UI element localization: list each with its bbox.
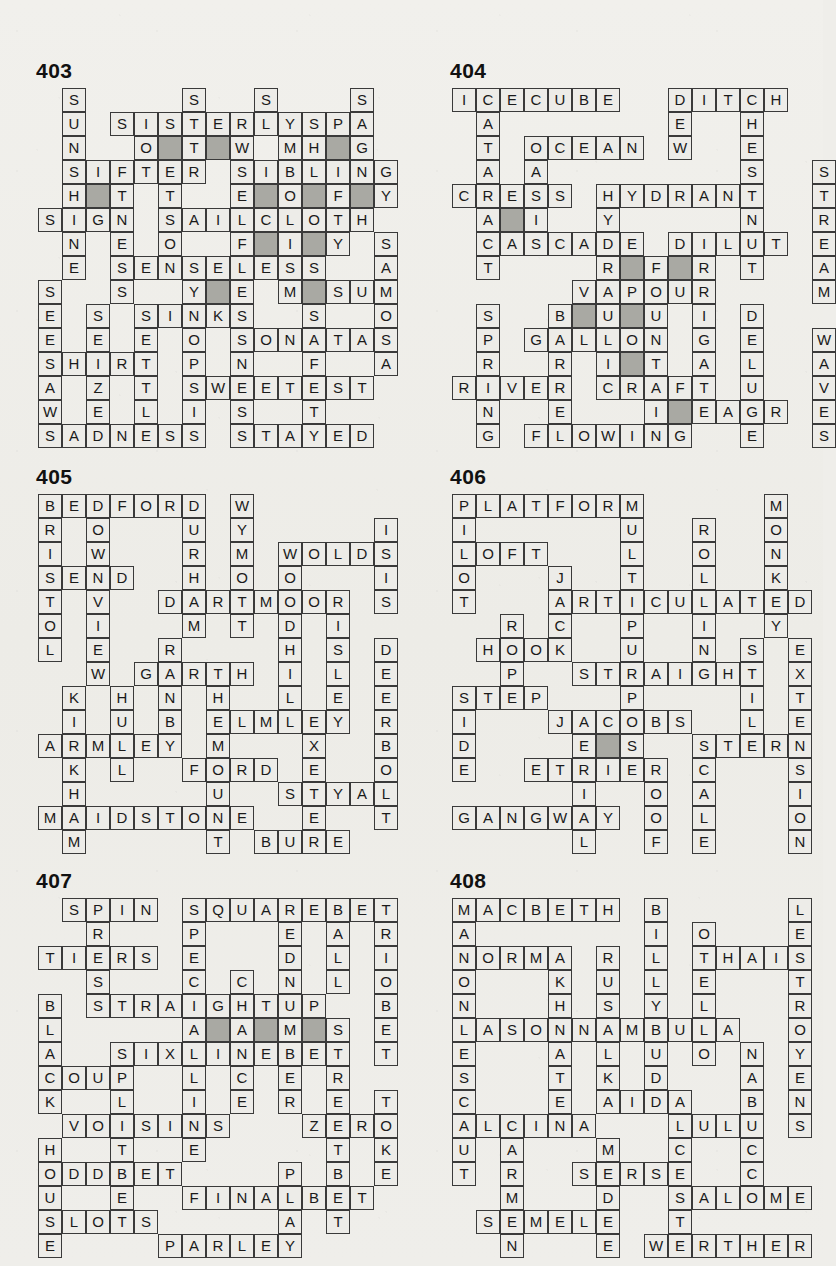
grid-letter-cell: P	[182, 922, 206, 946]
grid-letter-cell: A	[182, 590, 206, 614]
grid-letter-cell: U	[692, 1114, 716, 1138]
grid-letter-cell: S	[206, 1114, 230, 1138]
grid-letter-cell: F	[326, 184, 350, 208]
grid-letter-cell: T	[476, 136, 500, 160]
grid-letter-cell: T	[350, 376, 374, 400]
grid-letter-cell: R	[812, 208, 836, 232]
grid-letter-cell: A	[812, 352, 836, 376]
grid-letter-cell: U	[668, 280, 692, 304]
grid-letter-cell: L	[716, 1186, 740, 1210]
grid-letter-cell: R	[326, 590, 350, 614]
grid-letter-cell: R	[206, 590, 230, 614]
grid-letter-cell: U	[62, 112, 86, 136]
grid-letter-cell: A	[254, 1186, 278, 1210]
grid-letter-cell: O	[524, 638, 548, 662]
grid-letter-cell: A	[278, 424, 302, 448]
grid-letter-cell: T	[326, 328, 350, 352]
grid-letter-cell: R	[548, 376, 572, 400]
grid-letter-cell: C	[38, 1066, 62, 1090]
grid-letter-cell: S	[374, 328, 398, 352]
grid-letter-cell: T	[110, 1210, 134, 1234]
grid-letter-cell: H	[278, 638, 302, 662]
grid-letter-cell: M	[620, 494, 644, 518]
grid-letter-cell: M	[620, 1018, 644, 1042]
grid-letter-cell: O	[38, 614, 62, 638]
grid-letter-cell: S	[134, 806, 158, 830]
grid-letter-cell: U	[668, 1018, 692, 1042]
grid-letter-cell: W	[86, 662, 110, 686]
grid-letter-cell: F	[182, 758, 206, 782]
grid-letter-cell: O	[524, 1018, 548, 1042]
grid-letter-cell: I	[788, 782, 812, 806]
grid-letter-cell: C	[500, 1114, 524, 1138]
grid-block-cell	[86, 184, 110, 208]
grid-letter-cell: H	[302, 136, 326, 160]
grid-letter-cell: A	[38, 1042, 62, 1066]
grid-block-cell	[206, 136, 230, 160]
grid-letter-cell: Y	[764, 614, 788, 638]
grid-letter-cell: L	[182, 1042, 206, 1066]
grid-letter-cell: S	[500, 1018, 524, 1042]
grid-letter-cell: R	[620, 376, 644, 400]
grid-letter-cell: A	[572, 1114, 596, 1138]
grid-letter-cell: A	[572, 806, 596, 830]
grid-letter-cell: T	[302, 782, 326, 806]
grid-letter-cell: N	[182, 1114, 206, 1138]
grid-letter-cell: T	[764, 232, 788, 256]
grid-letter-cell: E	[326, 1114, 350, 1138]
grid-letter-cell: U	[230, 898, 254, 922]
grid-letter-cell: D	[668, 232, 692, 256]
grid-letter-cell: I	[158, 304, 182, 328]
grid-block-cell	[302, 232, 326, 256]
grid-letter-cell: N	[644, 328, 668, 352]
grid-letter-cell: S	[812, 160, 836, 184]
grid-letter-cell: M	[182, 614, 206, 638]
grid-letter-cell: E	[62, 256, 86, 280]
grid-letter-cell: I	[374, 946, 398, 970]
grid-letter-cell: S	[182, 898, 206, 922]
grid-letter-cell: R	[62, 734, 86, 758]
grid-letter-cell: E	[62, 566, 86, 590]
grid-letter-cell: M	[86, 734, 110, 758]
grid-letter-cell: S	[86, 970, 110, 994]
grid-letter-cell: R	[182, 160, 206, 184]
grid-letter-cell: U	[548, 88, 572, 112]
grid-letter-cell: X	[788, 662, 812, 686]
grid-block-cell	[206, 280, 230, 304]
grid-letter-cell: T	[326, 1042, 350, 1066]
grid-letter-cell: E	[500, 184, 524, 208]
grid-letter-cell: I	[278, 232, 302, 256]
grid-letter-cell: E	[254, 1234, 278, 1258]
grid-letter-cell: G	[206, 994, 230, 1018]
grid-letter-cell: R	[500, 1162, 524, 1186]
grid-letter-cell: S	[374, 232, 398, 256]
grid-letter-cell: H	[548, 994, 572, 1018]
grid-letter-cell: N	[158, 686, 182, 710]
grid-letter-cell: N	[572, 1018, 596, 1042]
grid-letter-cell: O	[620, 710, 644, 734]
grid-letter-cell: N	[548, 1114, 572, 1138]
grid-letter-cell: E	[206, 112, 230, 136]
grid-letter-cell: S	[326, 638, 350, 662]
grid-letter-cell: C	[182, 970, 206, 994]
grid-block-cell	[596, 734, 620, 758]
grid-letter-cell: K	[548, 638, 572, 662]
grid-letter-cell: L	[572, 328, 596, 352]
grid-letter-cell: R	[350, 1114, 374, 1138]
grid-letter-cell: H	[740, 112, 764, 136]
grid-letter-cell: P	[524, 686, 548, 710]
puzzle-number-label: 408	[450, 870, 487, 891]
grid-letter-cell: A	[500, 232, 524, 256]
grid-letter-cell: B	[644, 1018, 668, 1042]
grid-letter-cell: T	[740, 590, 764, 614]
grid-letter-cell: U	[620, 638, 644, 662]
grid-letter-cell: L	[326, 946, 350, 970]
grid-letter-cell: I	[524, 208, 548, 232]
grid-letter-cell: L	[716, 232, 740, 256]
grid-letter-cell: R	[158, 638, 182, 662]
grid-letter-cell: I	[452, 88, 476, 112]
grid-letter-cell: H	[350, 208, 374, 232]
grid-letter-cell: T	[692, 946, 716, 970]
grid-letter-cell: A	[158, 662, 182, 686]
grid-letter-cell: L	[278, 208, 302, 232]
